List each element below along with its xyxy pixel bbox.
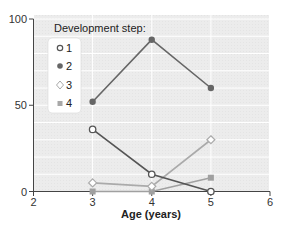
legend-label: 2 [66, 60, 72, 72]
x-axis-title: Age (years) [121, 208, 181, 220]
open-circle-marker-icon [57, 45, 62, 50]
x-tick-label: 4 [149, 196, 155, 208]
filled-square-marker-icon [58, 101, 63, 106]
filled-square-marker [208, 175, 214, 181]
legend-label: 3 [66, 79, 72, 91]
open-circle-marker [89, 126, 95, 132]
legend-title: Development step: [54, 22, 146, 34]
y-tick-label: 100 [9, 13, 27, 25]
line-chart: 050100 23456 Age (years) Development ste… [0, 0, 284, 231]
legend-box [48, 38, 81, 113]
open-circle-marker [208, 188, 214, 194]
filled-circle-marker-icon [57, 63, 63, 69]
filled-circle-marker [89, 99, 95, 105]
y-axis-ticks: 050100 [9, 13, 34, 198]
y-tick-label: 50 [15, 99, 27, 111]
x-tick-label: 5 [208, 196, 214, 208]
legend-label: 4 [66, 97, 72, 109]
x-tick-label: 6 [267, 196, 273, 208]
x-tick-label: 2 [30, 196, 36, 208]
legend-label: 1 [66, 42, 72, 54]
open-circle-marker [149, 171, 155, 177]
filled-square-marker [90, 189, 96, 195]
x-tick-label: 3 [90, 196, 96, 208]
filled-circle-marker [208, 85, 214, 91]
y-tick-label: 0 [21, 186, 27, 198]
filled-circle-marker [149, 37, 155, 43]
